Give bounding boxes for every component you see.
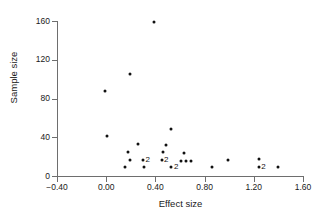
data-point: [153, 20, 156, 23]
data-point: [142, 158, 145, 161]
data-point: [182, 151, 185, 154]
x-axis-tick-label: 0.00: [86, 183, 126, 192]
y-axis-tick-label: 120: [36, 55, 50, 64]
data-point: [103, 89, 106, 92]
data-point-count-label: 2: [146, 156, 150, 164]
data-point-count-label: 2: [174, 163, 178, 171]
data-point: [143, 166, 146, 169]
data-point: [170, 127, 173, 130]
data-point: [210, 166, 213, 169]
data-point: [226, 158, 229, 161]
data-point: [170, 166, 173, 169]
data-point: [161, 150, 164, 153]
data-point: [128, 73, 131, 76]
data-point-count-label: 2: [164, 156, 168, 164]
data-point: [106, 135, 109, 138]
x-axis-tick-label: −0.40: [37, 183, 77, 192]
x-axis-line: [57, 176, 304, 177]
plot-data-area: 2222: [57, 21, 303, 176]
data-point: [257, 157, 260, 160]
scatter-plot-figure: 04080120160−0.400.000.400.801.201.60 222…: [0, 0, 323, 220]
data-point: [127, 150, 130, 153]
data-point: [257, 166, 260, 169]
data-point: [137, 143, 140, 146]
y-axis-tick-label: 40: [41, 133, 50, 142]
x-axis-label: Effect size: [57, 198, 304, 209]
data-point: [165, 144, 168, 147]
x-axis-tick-label: 0.40: [135, 183, 175, 192]
data-point: [160, 158, 163, 161]
data-point: [185, 159, 188, 162]
x-axis-tick-label: 0.80: [185, 183, 225, 192]
data-point: [277, 166, 280, 169]
y-axis-label: Sample size: [8, 43, 19, 113]
x-axis-tick-label: 1.20: [234, 183, 274, 192]
y-axis-tick-label: 0: [45, 172, 50, 181]
data-point: [180, 159, 183, 162]
y-axis-tick-label: 80: [41, 94, 50, 103]
y-axis-tick-label: 160: [36, 17, 50, 26]
data-point-count-label: 2: [261, 163, 265, 171]
x-axis-tick-label: 1.60: [283, 183, 323, 192]
data-point: [128, 158, 131, 161]
data-point: [123, 166, 126, 169]
data-point: [190, 159, 193, 162]
